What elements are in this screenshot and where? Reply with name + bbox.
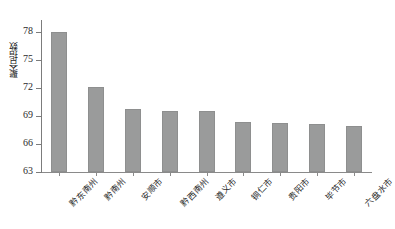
bar [272, 123, 288, 172]
x-axis-tick-label: 六盘水市 [362, 176, 395, 209]
bar [346, 126, 362, 172]
bar [51, 32, 67, 172]
x-axis-tick-label: 安顺市 [139, 176, 165, 202]
x-axis-tick-label: 黔南州 [102, 176, 128, 202]
x-axis-tick-mark [133, 172, 134, 176]
y-axis-tick-label: 66 [23, 137, 33, 149]
bar [88, 87, 104, 172]
x-axis-tick-mark [96, 172, 97, 176]
bar [235, 122, 251, 172]
x-axis-tick-mark [170, 172, 171, 176]
bar [199, 111, 215, 172]
x-axis-tick-mark [59, 172, 60, 176]
bar [309, 124, 325, 172]
x-axis-tick-mark [354, 172, 355, 176]
y-axis-tick-label: 72 [23, 81, 33, 93]
y-axis-tick-label: 78 [23, 25, 33, 37]
x-axis-tick-label: 毕节市 [323, 176, 349, 202]
x-axis-tick-mark [243, 172, 244, 176]
x-axis-tick-label: 铜仁市 [249, 176, 275, 202]
x-axis-tick-label: 黔东南州 [68, 176, 101, 209]
y-axis-tick-mark [36, 172, 42, 173]
x-axis-tick-mark [280, 172, 281, 176]
y-axis-tick-label: 75 [23, 53, 33, 65]
x-axis-tick-label: 贵阳市 [286, 176, 312, 202]
bars-container [41, 20, 372, 172]
y-axis-tick-label: 69 [23, 109, 33, 121]
y-axis-title: 聚合指数 [8, 42, 22, 78]
x-axis-tick-mark [207, 172, 208, 176]
x-axis-tick-mark [317, 172, 318, 176]
bar [125, 109, 141, 172]
x-axis-tick-label: 遵义市 [212, 176, 238, 202]
x-axis-tick-label: 黔西南州 [178, 176, 211, 209]
bar [162, 111, 178, 172]
y-axis-tick-label: 63 [23, 165, 33, 177]
y-axis-tick: 63 [36, 172, 42, 173]
